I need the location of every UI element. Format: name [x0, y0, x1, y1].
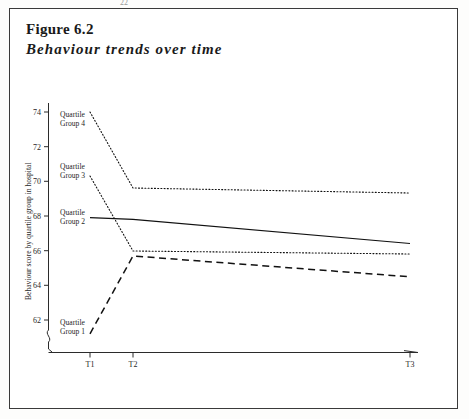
y-tick-label-72: 72	[33, 143, 41, 152]
series-label-g2-line2: Group 2	[60, 217, 85, 226]
x-tick-label-t3: T3	[406, 360, 415, 369]
chart-plot: 74 72 70 68 66 64 62 Behaviour score by …	[0, 0, 469, 419]
y-tick-label-68: 68	[33, 212, 41, 221]
series-line-quartile-group-3	[90, 176, 410, 254]
series-line-quartile-group-2	[90, 218, 410, 244]
series-label-g4-line2: Group 4	[60, 119, 85, 128]
y-tick-label-74: 74	[33, 108, 41, 117]
series-label-quartile-group-4: Quartile Group 4	[60, 110, 86, 128]
series-line-quartile-group-4	[90, 112, 410, 193]
x-tick-marks	[90, 353, 410, 358]
series-label-g1-line1: Quartile	[60, 318, 86, 327]
y-tick-label-64: 64	[33, 281, 41, 290]
series-label-g1-line2: Group 1	[60, 327, 85, 336]
series-line-quartile-group-1	[90, 256, 410, 334]
page-canvas: 22 Figure 6.2 Behaviour trends over time	[0, 0, 469, 419]
series-label-quartile-group-3: Quartile Group 3	[60, 162, 86, 180]
y-axis-title: Behaviour score by quartile group in hos…	[24, 163, 33, 301]
y-axis-break-icon	[47, 330, 52, 352]
series-label-quartile-group-2: Quartile Group 2	[60, 208, 86, 226]
series-label-quartile-group-1: Quartile Group 1	[60, 318, 86, 336]
series-label-g2-line1: Quartile	[60, 208, 86, 217]
x-tick-label-t2: T2	[129, 360, 138, 369]
y-tick-marks	[44, 112, 49, 320]
y-tick-label-70: 70	[33, 177, 41, 186]
x-tick-label-t1: T1	[86, 360, 95, 369]
series-label-g3-line1: Quartile	[60, 162, 86, 171]
series-label-g4-line1: Quartile	[60, 110, 86, 119]
y-tick-label-66: 66	[33, 247, 41, 256]
series-label-g3-line2: Group 3	[60, 171, 85, 180]
y-tick-label-62: 62	[33, 316, 41, 325]
